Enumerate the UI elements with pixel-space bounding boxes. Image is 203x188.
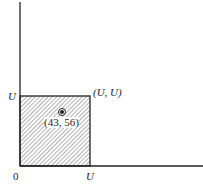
x-tick-label: U	[86, 171, 94, 182]
point-marker-inner	[60, 110, 64, 114]
corner-label: (U, U)	[93, 87, 122, 98]
point-label: (43, 56)	[44, 117, 79, 128]
hatched-region	[20, 96, 90, 166]
y-tick-label: U	[8, 91, 16, 102]
origin-label: 0	[13, 171, 19, 182]
